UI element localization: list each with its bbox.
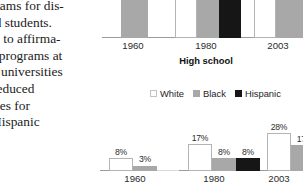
bar-value-label: 17% [187, 133, 213, 143]
article-body-text: ograms for dis- ged students. ges to aff… [0, 0, 100, 147]
bar-white-1980[interactable] [175, 0, 197, 38]
gray-swatch-icon [193, 90, 200, 97]
bar-group-1960: 20% [106, 0, 164, 38]
bar-group-2003 [254, 0, 303, 38]
legend-item-black[interactable]: Black [193, 89, 226, 98]
bar-black-1980[interactable] [212, 158, 236, 171]
bar-hispanic-1980[interactable] [219, 0, 241, 38]
chart-college: 8% 3% 17% 8% 8% 28% 17% [100, 124, 303, 171]
bar-hispanic-1960[interactable] [157, 170, 179, 171]
x-tick-1980: 1980 [188, 173, 240, 184]
bar-group-1960: 8% 3% [109, 125, 179, 171]
legend-label: Black [203, 89, 226, 98]
bar-value-label: 8% [108, 147, 134, 157]
bar-value-label: 17% [291, 134, 303, 144]
bar-black-2003[interactable] [291, 145, 303, 171]
page-canvas: ograms for dis- ged students. ges to aff… [0, 0, 303, 188]
body-line: nities for [0, 98, 100, 115]
bar-value-label: 8% [235, 147, 261, 157]
white-swatch-icon [150, 90, 157, 97]
bar-white-1960[interactable] [109, 158, 133, 171]
x-tick-2003: 2003 [253, 40, 303, 51]
legend-label: White [160, 89, 184, 98]
bar-white-2003[interactable] [254, 0, 276, 38]
bar-black-2003[interactable] [276, 0, 303, 38]
legend-label: Hispanic [245, 89, 281, 98]
chart-title-high-school: High school [178, 55, 234, 66]
bar-black-1980[interactable] [197, 0, 219, 38]
bar-value-label: 28% [265, 122, 293, 132]
legend-item-white[interactable]: White [150, 89, 184, 98]
body-line: . [0, 131, 100, 148]
body-line: on programs at [0, 48, 100, 65]
chart-legend: White Black Hispanic [150, 89, 281, 98]
bar-black-1960[interactable] [133, 166, 157, 171]
body-line: ate universities [0, 64, 100, 81]
body-line: o reduced [0, 81, 100, 98]
x-tick-1980: 1980 [178, 40, 234, 51]
chart-high-school: 20% [102, 0, 303, 38]
x-tick-1960: 1960 [109, 173, 161, 184]
x-tick-1960: 1960 [107, 40, 159, 51]
body-line: d Hispanic [0, 114, 100, 131]
black-swatch-icon [235, 90, 242, 97]
bar-white-2003[interactable] [267, 133, 291, 171]
body-line: ograms for dis- [0, 0, 100, 15]
bar-white-1980[interactable] [188, 144, 212, 171]
bar-value-label: 8% [211, 147, 237, 157]
body-line: ges to affirma- [0, 31, 100, 48]
bar-value-label: 3% [132, 154, 158, 164]
bar-black-1960[interactable] [121, 0, 148, 38]
bar-group-1980: 17% 8% 8% [188, 125, 258, 171]
body-line: ged students. [0, 15, 100, 32]
x-tick-2003: 2003 [255, 173, 303, 184]
bar-hispanic-1980[interactable] [236, 158, 260, 171]
bar-group-2003: 28% 17% [267, 125, 303, 171]
bar-group-1980 [175, 0, 241, 38]
legend-item-hispanic[interactable]: Hispanic [235, 89, 281, 98]
